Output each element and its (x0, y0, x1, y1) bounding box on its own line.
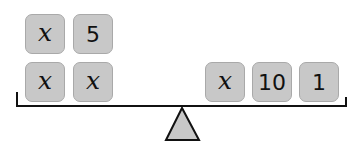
left-tile-5: 5 (73, 14, 113, 54)
left-tile-x-top: x (25, 14, 65, 54)
right-tile-1: 1 (299, 62, 339, 102)
fulcrum-triangle (166, 108, 199, 140)
left-tile-x-bottom-2: x (73, 62, 113, 102)
right-tile-x: x (205, 62, 245, 102)
right-tile-10: 10 (252, 62, 292, 102)
left-tile-x-bottom-1: x (25, 62, 65, 102)
balance-beam (17, 92, 346, 106)
